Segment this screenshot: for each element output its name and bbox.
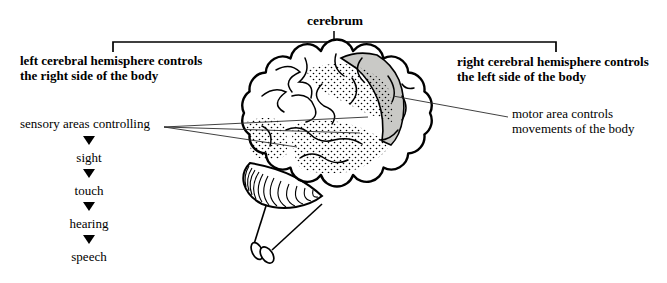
- sensory-item-touch: touch: [75, 183, 104, 198]
- sensory-chain: sight touch hearing speech: [39, 136, 139, 268]
- motor-area-label-line2: movements of the body: [512, 121, 634, 136]
- down-arrow-icon: [83, 136, 95, 145]
- brain-stem: [254, 204, 322, 250]
- left-hemisphere-label: left cerebral hemisphere controls the ri…: [20, 53, 202, 83]
- sensory-item-sight: sight: [76, 150, 101, 165]
- right-hemisphere-label-line2: the left side of the body: [457, 69, 649, 84]
- spinal-bulb: [249, 241, 277, 266]
- sensory-areas-label: sensory areas controlling: [20, 116, 150, 131]
- sensory-item-hearing: hearing: [70, 216, 109, 231]
- brain-diagram: cerebrum left cerebral hemisphere contro…: [0, 0, 667, 283]
- down-arrow-icon: [83, 235, 95, 244]
- down-arrow-icon: [83, 169, 95, 178]
- down-arrow-icon: [83, 202, 95, 211]
- motor-area-label: motor area controls movements of the bod…: [512, 106, 634, 136]
- diagram-title: cerebrum: [260, 13, 410, 29]
- left-hemisphere-label-line1: left cerebral hemisphere controls: [20, 53, 202, 68]
- right-hemisphere-label: right cerebral hemisphere controls the l…: [457, 54, 649, 84]
- right-hemisphere-label-line1: right cerebral hemisphere controls: [457, 54, 649, 69]
- sensory-item-speech: speech: [71, 249, 106, 264]
- motor-area-label-line1: motor area controls: [512, 106, 634, 121]
- left-hemisphere-label-line2: the right side of the body: [20, 68, 202, 83]
- sensory-stipple-occipital: [247, 118, 288, 160]
